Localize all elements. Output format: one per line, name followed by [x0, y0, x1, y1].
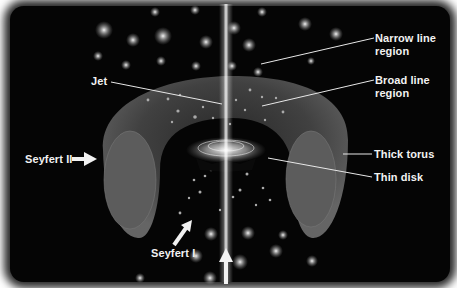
label-jet: Jet — [91, 75, 107, 88]
narrow-line-clouds — [93, 5, 343, 77]
broad-line-text-1: Broad line — [375, 74, 430, 87]
label-seyfert-i: Seyfert I — [151, 247, 195, 260]
label-thin-disk: Thin disk — [374, 171, 423, 184]
label-narrow-line-region: Narrow line region — [375, 32, 436, 58]
narrow-line-text-2: region — [375, 45, 436, 58]
seyfert-ii-arrow — [72, 152, 97, 166]
narrow-line-leader — [261, 38, 374, 64]
narrow-line-text-1: Narrow line — [375, 32, 436, 45]
seyfert-i-arrow — [174, 220, 192, 245]
label-broad-line-region: Broad line region — [375, 74, 430, 100]
label-thick-torus: Thick torus — [374, 148, 434, 161]
jet — [219, 4, 233, 282]
broad-line-text-2: region — [375, 87, 430, 100]
label-seyfert-ii: Seyfert II — [25, 153, 72, 166]
